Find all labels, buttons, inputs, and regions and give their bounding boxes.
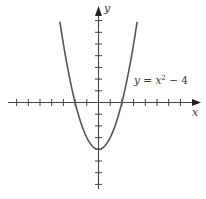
equation-label: y = x2 − 4: [133, 74, 188, 86]
equation-suffix: − 4: [166, 74, 188, 86]
y-axis-arrow-icon: [95, 6, 102, 16]
parabola-graph: x y y = x2 − 4: [0, 0, 206, 199]
equation-prefix: y = x: [133, 74, 161, 86]
x-axis-arrow-icon: [192, 99, 201, 106]
x-axis-label: x: [192, 106, 199, 119]
axes: [8, 16, 196, 189]
y-axis-label: y: [103, 2, 111, 15]
